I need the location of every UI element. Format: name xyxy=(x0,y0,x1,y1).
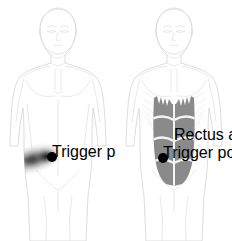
trigger-point-chart: Rectus Abdominis Trigger Point Referred … xyxy=(0,0,232,241)
trigger-point-label: Trigger point xyxy=(52,143,116,160)
figure-panel-pain-pattern: Referred pain pattern xyxy=(0,0,116,241)
body-figure-pain: Trigger point xyxy=(0,0,116,241)
body-figure-muscle: Trigger point Rectus abdominis xyxy=(116,0,232,241)
muscle-name-label: Rectus abdominis xyxy=(174,126,232,143)
figure-panel-muscle-anatomy: Rectus abdominis muscle xyxy=(116,0,232,241)
trigger-point-label: Trigger point xyxy=(163,144,232,161)
